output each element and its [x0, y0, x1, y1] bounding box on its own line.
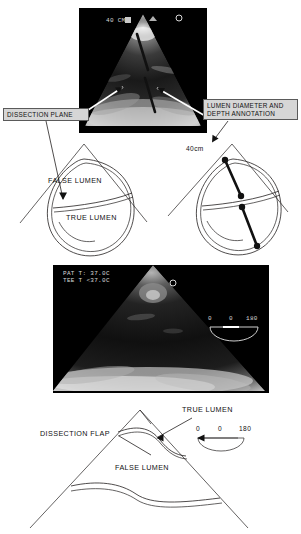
bottom-omniplane-left: 0 — [196, 425, 200, 432]
figure-canvas: 40 CM — [0, 0, 301, 534]
bottom-dissection-flap — [118, 428, 187, 459]
leader-dissection-flap — [119, 436, 151, 455]
bottom-true-lumen-label: TRUE LUMEN — [182, 405, 233, 414]
bottom-aortic-wall-lower — [71, 483, 222, 507]
diagram-bottom-longitudinal — [0, 0, 301, 534]
leader-true-lumen-bottom — [157, 418, 193, 442]
bottom-false-lumen-label: FALSE LUMEN — [115, 463, 169, 472]
bottom-omniplane-indicator-icon — [197, 435, 244, 452]
bottom-omniplane-center: 0 — [218, 425, 222, 432]
bottom-dissection-flap-label: DISSECTION FLAP — [40, 429, 110, 438]
bottom-omniplane-right: 180 — [239, 425, 251, 432]
